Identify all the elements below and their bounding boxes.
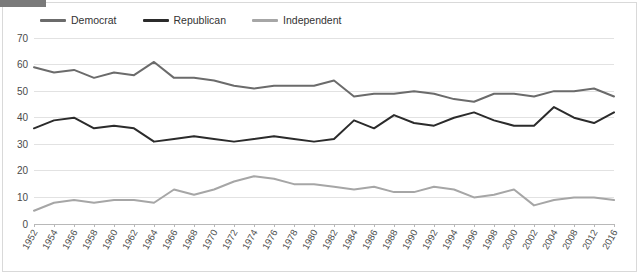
svg-text:2000: 2000 — [500, 228, 520, 252]
svg-text:70: 70 — [17, 33, 29, 44]
svg-text:30: 30 — [17, 139, 29, 150]
svg-text:1986: 1986 — [360, 228, 380, 252]
svg-text:1992: 1992 — [420, 228, 440, 252]
svg-text:2002: 2002 — [520, 228, 540, 252]
grid-lines — [34, 38, 614, 224]
svg-text:1984: 1984 — [340, 228, 360, 252]
legend-label-republican: Republican — [174, 14, 227, 26]
svg-text:1964: 1964 — [140, 228, 160, 252]
svg-text:1966: 1966 — [160, 228, 180, 252]
svg-text:40: 40 — [17, 112, 29, 123]
svg-text:1952: 1952 — [20, 228, 40, 252]
legend-label-independent: Independent — [283, 14, 341, 26]
svg-text:1996: 1996 — [460, 228, 480, 252]
svg-text:10: 10 — [17, 192, 29, 203]
svg-text:60: 60 — [17, 59, 29, 70]
svg-text:2012: 2012 — [580, 228, 600, 252]
svg-text:1960: 1960 — [100, 228, 120, 252]
y-axis-labels: 010203040506070 — [17, 33, 29, 230]
svg-text:1982: 1982 — [320, 228, 340, 252]
series-line-republican — [34, 107, 614, 142]
svg-text:1990: 1990 — [400, 228, 420, 252]
svg-text:2004: 2004 — [540, 228, 560, 252]
svg-text:1988: 1988 — [380, 228, 400, 252]
svg-text:1998: 1998 — [480, 228, 500, 252]
x-axis-labels: 1952195419561958196019621964196619681970… — [20, 224, 620, 251]
legend-label-democrat: Democrat — [71, 14, 117, 26]
svg-text:2008: 2008 — [560, 228, 580, 252]
svg-text:1978: 1978 — [280, 228, 300, 252]
svg-text:2016: 2016 — [600, 228, 620, 252]
svg-text:1972: 1972 — [220, 228, 240, 252]
svg-text:1980: 1980 — [300, 228, 320, 252]
svg-text:20: 20 — [17, 165, 29, 176]
legend-item-independent[interactable]: Independent — [252, 14, 341, 26]
svg-text:1962: 1962 — [120, 228, 140, 252]
svg-text:1954: 1954 — [40, 228, 60, 252]
selection-handle[interactable] — [0, 0, 46, 7]
svg-text:1958: 1958 — [80, 228, 100, 252]
chart-legend: Democrat Republican Independent — [40, 14, 341, 26]
series-line-independent — [34, 176, 614, 211]
svg-text:1994: 1994 — [440, 228, 460, 252]
svg-text:1976: 1976 — [260, 228, 280, 252]
chart-container: Democrat Republican Independent 01020304… — [0, 0, 641, 277]
data-series — [34, 62, 614, 211]
svg-text:1956: 1956 — [60, 228, 80, 252]
legend-swatch-independent — [252, 19, 278, 22]
svg-text:50: 50 — [17, 86, 29, 97]
svg-text:1970: 1970 — [200, 228, 220, 252]
legend-item-democrat[interactable]: Democrat — [40, 14, 117, 26]
legend-item-republican[interactable]: Republican — [143, 14, 227, 26]
legend-swatch-democrat — [40, 19, 66, 22]
plot-area: 010203040506070 195219541956195819601962… — [8, 32, 628, 264]
svg-text:1968: 1968 — [180, 228, 200, 252]
legend-swatch-republican — [143, 19, 169, 22]
svg-text:0: 0 — [22, 219, 28, 230]
line-chart-svg: 010203040506070 195219541956195819601962… — [8, 32, 628, 264]
svg-text:1974: 1974 — [240, 228, 260, 252]
series-line-democrat — [34, 62, 614, 102]
